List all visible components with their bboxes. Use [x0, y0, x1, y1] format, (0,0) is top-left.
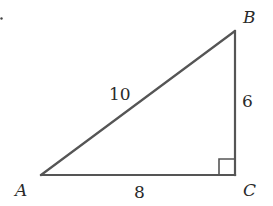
side-ab — [41, 31, 235, 175]
stray-dot — [0, 17, 2, 19]
side-label-bc: 6 — [242, 91, 253, 111]
side-label-ab: 10 — [109, 84, 131, 104]
vertex-label-a: A — [13, 180, 27, 200]
side-label-ac: 8 — [134, 182, 145, 202]
vertex-label-c: C — [243, 180, 256, 200]
vertex-label-b: B — [242, 7, 256, 27]
right-angle-marker — [219, 159, 235, 175]
triangle-diagram: B A C 10 6 8 — [0, 0, 273, 206]
